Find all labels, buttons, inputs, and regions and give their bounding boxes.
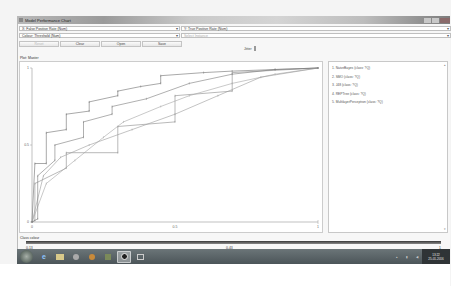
volume-icon[interactable]: ◀	[416, 255, 418, 259]
app-green-icon[interactable]	[101, 251, 115, 263]
media-player-icon[interactable]	[69, 251, 83, 263]
roc-line-naivebayes	[32, 68, 318, 222]
svg-text:1: 1	[317, 225, 319, 229]
jitter-slider[interactable]	[254, 46, 256, 51]
system-tray: ▴ ▮ ◀ 13:22 25-01-2016	[392, 249, 450, 264]
scroll-up-icon[interactable]: ▴	[444, 63, 446, 67]
clock[interactable]: 13:22 25-01-2016	[422, 249, 450, 264]
window-title: Model Performance Chart	[25, 18, 71, 23]
file-explorer-icon[interactable]	[53, 251, 67, 263]
minimize-button[interactable]	[424, 18, 431, 23]
chevron-down-icon: ▾	[447, 34, 449, 38]
app-window-icon[interactable]	[133, 251, 147, 263]
network-icon[interactable]: ▮	[406, 255, 408, 259]
window-titlebar[interactable]: Model Performance Chart	[17, 16, 450, 24]
save-button[interactable]: Save	[142, 41, 182, 47]
chevron-down-icon: ▾	[447, 27, 449, 31]
class-colour-label: Class colour	[20, 236, 39, 240]
legend-item[interactable]: 5. MultilayerPerceptron (class: ?Q)	[332, 100, 444, 104]
y-axis-select-value: Y: True Positive Rate (Num)	[184, 27, 227, 31]
legend-item[interactable]: 1. NaiveBayes (class: ?Q)	[332, 66, 444, 70]
maximize-button[interactable]	[432, 18, 439, 23]
close-button[interactable]	[440, 18, 450, 23]
app-orange-icon[interactable]	[85, 251, 99, 263]
page-margin	[0, 264, 450, 286]
jitter-control: Jitter	[244, 46, 256, 51]
svg-text:0.5: 0.5	[173, 225, 178, 229]
internet-explorer-icon[interactable]: e	[37, 251, 51, 263]
plot-label: Plot: Master	[20, 56, 39, 60]
svg-text:0: 0	[27, 220, 29, 224]
class-colour-bar	[26, 241, 441, 244]
tray-arrow-icon[interactable]: ▴	[396, 255, 398, 259]
colour-select-value: Colour: Threshold (Num)	[22, 34, 60, 38]
window-controls	[423, 18, 450, 23]
window-client: X: False Positive Rate (Num) ▾ Y: True P…	[17, 24, 450, 250]
x-axis-select-value: X: False Positive Rate (Num)	[22, 27, 67, 31]
start-button[interactable]	[20, 250, 33, 263]
roc-chart-svg: 00.5100.51	[20, 62, 322, 232]
tray-icons[interactable]: ▴ ▮ ◀	[392, 249, 422, 264]
reset-button[interactable]: Reset	[19, 41, 59, 47]
app-icon	[19, 18, 23, 22]
x-axis-select[interactable]: X: False Positive Rate (Num) ▾	[19, 26, 180, 31]
clock-date: 25-01-2016	[428, 257, 443, 261]
roc-line-reptree	[32, 68, 318, 222]
jitter-label: Jitter	[244, 47, 252, 51]
roc-line-smo	[32, 68, 318, 222]
svg-text:0: 0	[31, 225, 33, 229]
legend-item[interactable]: 3. J48 (class: ?Q)	[332, 83, 444, 87]
y-axis-select[interactable]: Y: True Positive Rate (Num) ▾	[181, 26, 451, 31]
legend-item[interactable]: 2. SMO (class: ?Q)	[332, 75, 444, 79]
roc-line-j48	[32, 68, 318, 222]
colour-select[interactable]: Colour: Threshold (Num) ▾	[19, 33, 180, 38]
legend-item[interactable]: 4. REPTree (class: ?Q)	[332, 92, 444, 96]
select-instance-value: Select Instance	[184, 34, 208, 38]
roc-line-multilayerperceptron	[32, 68, 318, 222]
select-instance-select[interactable]: Select Instance ▾	[181, 33, 451, 38]
chevron-down-icon: ▾	[176, 34, 178, 38]
roc-plot[interactable]: 00.5100.51	[19, 61, 323, 233]
taskbar: e ▴ ▮ ◀ 13:22 25-01-2016	[17, 249, 450, 264]
legend-panel[interactable]: ▴ 1. NaiveBayes (class: ?Q) 2. SMO (clas…	[328, 61, 448, 233]
scroll-down-icon[interactable]: ▾	[444, 227, 446, 231]
clear-button[interactable]: Clear	[60, 41, 100, 47]
chart-lines	[32, 67, 318, 223]
open-button[interactable]: Open	[101, 41, 141, 47]
svg-text:0.5: 0.5	[24, 143, 29, 147]
weka-icon[interactable]	[117, 251, 131, 263]
chevron-down-icon: ▾	[176, 27, 178, 31]
chart-axes: 00.5100.51	[24, 66, 319, 229]
svg-text:1: 1	[27, 66, 29, 70]
